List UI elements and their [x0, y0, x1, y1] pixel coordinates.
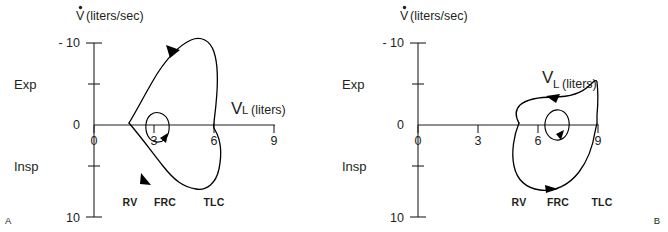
panel-a-y-axis-title-symbol: V	[76, 9, 85, 23]
panel-b: V (liters/sec) V L (liters) - 10 0 10 0 …	[334, 0, 668, 232]
panel-a-inspiration-label: Insp	[14, 159, 39, 174]
panel-a: V (liters/sec) V L (liters) - 10 0 10 0 …	[0, 0, 334, 232]
panel-a-expiratory-arrow-icon	[166, 45, 180, 58]
panel-a-letter: A	[5, 215, 12, 226]
panel-b-plot: V (liters/sec) V L (liters) - 10 0 10 0 …	[334, 0, 668, 232]
panel-b-inspiration-label: Insp	[342, 159, 367, 174]
panel-b-volume-marker-rv: RV	[512, 196, 527, 208]
panel-a-x-axis-title-subscript: L	[242, 104, 249, 116]
panel-a-expiration-label: Exp	[14, 77, 36, 92]
panel-a-x-axis-title-units: (liters)	[251, 103, 286, 117]
flow-volume-loop-figure: V (liters/sec) V L (liters) - 10 0 10 0 …	[0, 0, 668, 232]
panel-a-ytick-label-0: 0	[73, 118, 80, 132]
panel-b-xtick-label-3: 3	[475, 134, 482, 148]
panel-a-ytick-label--10: - 10	[58, 36, 80, 50]
panel-a-xtick-label-9: 9	[271, 134, 278, 148]
panel-b-ytick-label-0: 0	[397, 118, 404, 132]
panel-b-xtick-label-9: 9	[595, 134, 602, 148]
panel-a-xtick-label-6: 6	[211, 134, 218, 148]
panel-b-volume-marker-frc: FRC	[547, 196, 569, 208]
panel-a-y-axis-title-units: (liters/sec)	[86, 9, 144, 23]
panel-b-xtick-label-6: 6	[535, 134, 542, 148]
panel-b-xtick-label-0: 0	[415, 134, 422, 148]
panel-b-volume-marker-tlc: TLC	[591, 196, 612, 208]
panel-b-ytick-label-10: 10	[390, 211, 404, 225]
panel-b-ytick-label--10: - 10	[382, 36, 404, 50]
panel-a-inspiratory-arrow-icon	[140, 173, 151, 185]
panel-b-expiratory-arrow-icon	[546, 94, 560, 103]
panel-b-inspiratory-limb	[513, 123, 597, 190]
panel-a-volume-marker-frc: FRC	[154, 196, 176, 208]
panel-a-plot: V (liters/sec) V L (liters) - 10 0 10 0 …	[0, 0, 334, 232]
panel-b-expiration-label: Exp	[342, 77, 364, 92]
panel-b-y-axis-title-symbol: V	[400, 9, 409, 23]
panel-a-ytick-label-10: 10	[66, 211, 80, 225]
panel-a-xtick-label-0: 0	[91, 134, 98, 148]
panel-b-letter: B	[654, 215, 660, 226]
panel-a-volume-marker-rv: RV	[123, 196, 138, 208]
panel-b-y-axis-title-units: (liters/sec)	[410, 9, 468, 23]
panel-b-inspiratory-arrow-icon	[545, 185, 558, 193]
panel-a-volume-marker-tlc: TLC	[203, 196, 224, 208]
panel-b-y-axis-title-overdot	[403, 6, 406, 9]
panel-a-y-axis-title-overdot	[79, 6, 82, 9]
panel-b-x-axis-title-subscript: L	[553, 78, 560, 90]
